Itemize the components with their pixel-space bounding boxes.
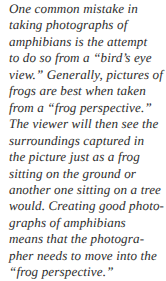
caption-line: means that the photogra-: [9, 231, 163, 247]
caption-line: the picture just as a frog: [9, 149, 163, 165]
caption-line: would. Creating good photo-: [9, 198, 163, 214]
caption-line: The viewer will then see the: [9, 116, 163, 132]
caption-line: pher needs to move into the: [9, 248, 163, 264]
caption-line: from a “frog perspective.”: [9, 100, 163, 116]
caption-line: amphibians is the attempt: [9, 34, 163, 50]
caption-line: sitting on the ground or: [9, 166, 163, 182]
caption-line: One common mistake in: [9, 1, 163, 17]
caption-line: another one sitting on a tree: [9, 182, 163, 198]
caption-line: view.” Generally, pictures of: [9, 67, 163, 83]
caption-line: surroundings captured in: [9, 133, 163, 149]
caption-line: to do so from a “bird’s eye: [9, 50, 163, 66]
caption-line: graphs of amphibians: [9, 215, 163, 231]
caption-line: “frog perspective.”: [9, 264, 163, 280]
caption-line: taking photographs of: [9, 17, 163, 33]
caption-line: frogs are best when taken: [9, 83, 163, 99]
